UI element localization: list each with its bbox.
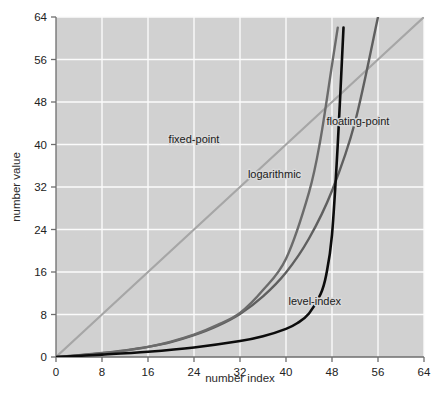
y-tick-label: 40 (34, 139, 47, 151)
chart-svg: 0816243240485664 0816243240485664 fixed-… (0, 0, 441, 393)
series-label-floating-point: floating-point (326, 115, 389, 127)
x-axis-title: number index (205, 372, 275, 384)
y-tick-label: 48 (34, 96, 47, 108)
x-tick-label: 24 (188, 366, 201, 378)
x-tick-label: 8 (99, 366, 105, 378)
series-label-fixed-point: fixed-point (169, 133, 220, 145)
y-axis-title: number value (10, 152, 22, 222)
series-label-level-index: level-index (288, 295, 341, 307)
chart-figure: 0816243240485664 0816243240485664 fixed-… (0, 0, 441, 393)
y-tick-label: 8 (41, 309, 47, 321)
x-tick-label: 0 (53, 366, 59, 378)
x-tick-label: 16 (142, 366, 155, 378)
series-label-logarithmic: logarithmic (248, 168, 302, 180)
y-tick-label: 16 (34, 266, 47, 278)
x-tick-label: 40 (280, 366, 293, 378)
x-tick-label: 48 (326, 366, 339, 378)
x-tick-label: 64 (418, 366, 431, 378)
y-tick-label: 32 (34, 181, 47, 193)
y-tick-label: 24 (34, 224, 47, 236)
x-tick-label: 56 (372, 366, 385, 378)
y-tick-label: 56 (34, 54, 47, 66)
y-tick-label: 0 (41, 351, 47, 363)
y-tick-label: 64 (34, 11, 47, 23)
